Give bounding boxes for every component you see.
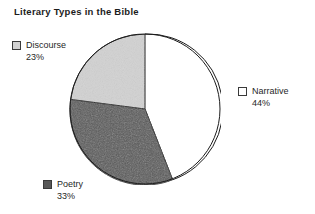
legend-value-poetry: 33%: [57, 191, 83, 202]
legend-label-narrative: Narrative: [252, 86, 289, 97]
legend-swatch-discourse-icon: [12, 41, 21, 50]
legend-swatch-narrative-icon: [238, 87, 247, 96]
legend-row-narrative: Narrative: [238, 85, 289, 97]
pie-chart-figure: Literary Types in the Bible: [0, 0, 315, 214]
legend-item-poetry[interactable]: Poetry 33%: [43, 178, 83, 202]
legend-swatch-poetry-icon: [43, 180, 52, 189]
legend-row-discourse: Discourse: [12, 39, 66, 51]
pie-graphic: [69, 33, 221, 185]
legend-value-narrative: 44%: [252, 98, 289, 109]
legend-label-discourse: Discourse: [26, 40, 66, 51]
chart-title: Literary Types in the Bible: [14, 6, 139, 17]
legend-row-poetry: Poetry: [43, 178, 83, 190]
legend-label-poetry: Poetry: [57, 179, 83, 190]
pie-slice-discourse[interactable]: [71, 34, 145, 109]
legend-item-discourse[interactable]: Discourse 23%: [12, 39, 66, 63]
legend-value-discourse: 23%: [26, 52, 66, 63]
legend-item-narrative[interactable]: Narrative 44%: [238, 85, 289, 109]
pie-svg: [69, 33, 221, 185]
